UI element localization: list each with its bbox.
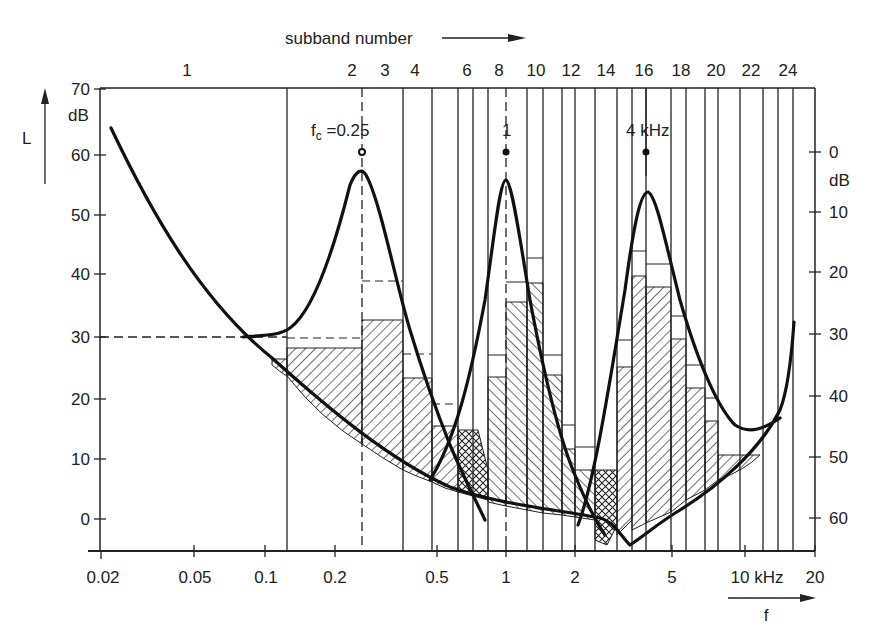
subband-label: 8 (494, 61, 503, 80)
y-tick-label: 60 (71, 146, 90, 165)
masking-threshold-chart: fc =0.25 1 4 kHz subband number 1 2 3 4 … (0, 0, 873, 631)
x-tick-label: 0.02 (86, 568, 119, 587)
subband-label: 3 (380, 61, 389, 80)
right-tick-label: 10 (829, 203, 848, 222)
marker-0.25khz (359, 149, 365, 155)
x-axis: 0.02 0.05 0.1 0.2 0.5 1 2 5 10 kHz 20 f (86, 545, 824, 625)
y-tick-label: 40 (71, 265, 90, 284)
right-tick-label: 0 (829, 143, 838, 162)
left-y-axis: L dB 70 60 50 40 30 20 10 0 (22, 80, 106, 529)
right-tick-label: 20 (829, 263, 848, 282)
subband-label: 1 (182, 61, 191, 80)
subband-label: 12 (562, 61, 581, 80)
subband-label: 6 (462, 61, 471, 80)
arrow-up-icon (41, 88, 49, 104)
subband-label: 10 (527, 61, 546, 80)
subband-label: 20 (707, 61, 726, 80)
subband-label: 18 (672, 61, 691, 80)
annotation-1khz: 1 (502, 121, 511, 140)
right-axis-unit: dB (829, 171, 850, 190)
annotation-4khz: 4 kHz (626, 121, 669, 140)
top-axis-label: subband number (285, 29, 413, 48)
x-axis-label: f (764, 606, 769, 625)
subband-label: 14 (597, 61, 616, 80)
y-tick-label: 0 (81, 510, 90, 529)
right-tick-label: 60 (829, 509, 848, 528)
x-tick-label: 0.05 (178, 568, 211, 587)
x-tick-label: 0.1 (254, 568, 278, 587)
y-tick-label: 70 (71, 80, 90, 99)
y-axis-label: L (22, 129, 31, 148)
right-tick-label: 50 (829, 448, 848, 467)
y-tick-label: 30 (71, 328, 90, 347)
annotation-fc: fc =0.25 (311, 121, 369, 143)
marker-4khz (643, 149, 650, 156)
x-tick-label: 20 (806, 568, 825, 587)
x-tick-label: 0.5 (425, 568, 449, 587)
subband-label: 4 (410, 61, 419, 80)
subband-label: 16 (635, 61, 654, 80)
y-tick-label: 10 (71, 450, 90, 469)
subband-label: 2 (347, 61, 356, 80)
x-tick-label: 2 (570, 568, 579, 587)
x-tick-label: 0.2 (323, 568, 347, 587)
y-axis-unit: dB (68, 106, 89, 125)
x-tick-label: 1 (501, 568, 510, 587)
x-tick-label: 5 (667, 568, 676, 587)
arrow-right-icon (800, 594, 816, 602)
right-tick-label: 40 (829, 387, 848, 406)
x-tick-label: 10 kHz (731, 568, 784, 587)
subband-label: 22 (742, 61, 761, 80)
subband-label: 24 (779, 61, 798, 80)
marker-1khz (503, 149, 510, 156)
annotations: fc =0.25 1 4 kHz (311, 121, 669, 143)
top-axis: subband number 1 2 3 4 6 8 10 12 14 16 1… (182, 29, 797, 80)
y-tick-label: 20 (71, 390, 90, 409)
right-tick-label: 30 (829, 325, 848, 344)
y-tick-label: 50 (71, 206, 90, 225)
